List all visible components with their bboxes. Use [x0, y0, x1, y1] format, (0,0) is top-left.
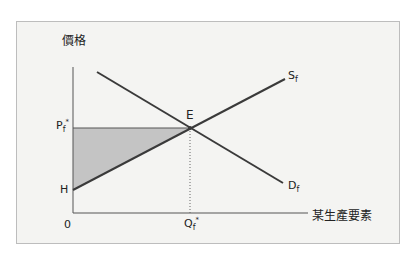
quantity-label-sub: f — [193, 223, 196, 232]
price-label-sup: * — [65, 118, 69, 126]
intercept-h-label: H — [60, 183, 68, 196]
price-label: Pf* — [56, 119, 69, 132]
equilibrium-label: E — [186, 108, 194, 122]
supply-label-main: S — [288, 69, 295, 82]
quantity-label-sup: * — [196, 216, 200, 224]
equilibrium-point — [188, 126, 192, 130]
quantity-label-main: Q — [184, 217, 193, 230]
y-axis-label: 價格 — [62, 31, 86, 48]
x-axis-label: 某生產要素 — [312, 206, 372, 223]
origin-label: 0 — [64, 218, 71, 231]
supply-label: Sf — [288, 69, 298, 82]
demand-label-sub: f — [296, 185, 299, 194]
price-label-main: P — [56, 119, 63, 132]
quantity-label: Qf* — [184, 217, 199, 230]
supply-label-sub: f — [295, 75, 298, 84]
demand-label: Df — [288, 179, 299, 192]
